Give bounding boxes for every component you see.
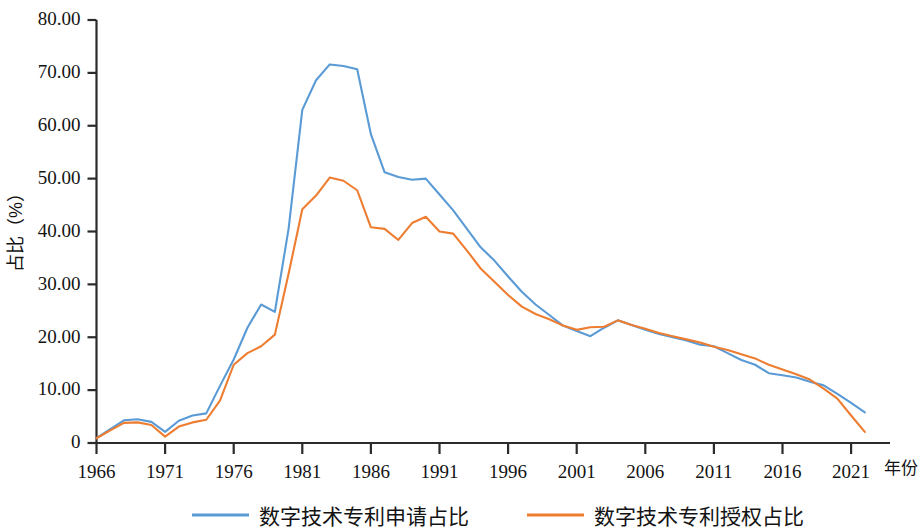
y-tick-label: 10.00 [38, 378, 81, 399]
x-axis-ticks: 1966197119761981198619911996200120062011… [78, 443, 871, 482]
legend-label-1: 数字技术专利申请占比 [259, 505, 469, 527]
chart-legend: 数字技术专利申请占比数字技术专利授权占比 [192, 505, 804, 527]
x-tick-label: 1981 [283, 461, 321, 482]
x-tick-label: 2011 [695, 461, 732, 482]
y-tick-label: 70.00 [38, 61, 81, 82]
y-axis-ticks: 010.0020.0030.0040.0050.0060.0070.0080.0… [38, 8, 97, 452]
x-axis-group: 1966197119761981198619911996200120062011… [78, 443, 891, 482]
series-line-1 [97, 64, 865, 438]
x-tick-label: 1986 [352, 461, 390, 482]
x-tick-label: 1996 [489, 461, 527, 482]
legend-label-2: 数字技术专利授权占比 [594, 505, 804, 527]
y-tick-label: 80.00 [38, 8, 81, 29]
chart-container: 010.0020.0030.0040.0050.0060.0070.0080.0… [0, 0, 924, 527]
x-tick-label: 2021 [832, 461, 870, 482]
x-tick-label: 1991 [421, 461, 459, 482]
x-tick-label: 2006 [626, 461, 664, 482]
y-tick-label: 50.00 [38, 167, 81, 188]
y-tick-label: 40.00 [38, 220, 81, 241]
series-lines [97, 64, 865, 438]
x-tick-label: 2016 [764, 461, 802, 482]
y-axis-group: 010.0020.0030.0040.0050.0060.0070.0080.0… [38, 8, 97, 452]
x-tick-label: 1966 [78, 461, 116, 482]
x-tick-label: 1971 [146, 461, 184, 482]
y-tick-label: 60.00 [38, 114, 81, 135]
y-tick-label: 0 [71, 431, 81, 452]
line-chart: 010.0020.0030.0040.0050.0060.0070.0080.0… [0, 0, 924, 527]
y-axis-title: 占比（%） [6, 184, 26, 272]
y-tick-label: 30.00 [38, 273, 81, 294]
y-tick-label: 20.00 [38, 326, 81, 347]
x-tick-label: 2001 [558, 461, 596, 482]
x-axis-title: 年份 [884, 459, 918, 478]
x-tick-label: 1976 [215, 461, 253, 482]
series-line-2 [97, 178, 865, 439]
